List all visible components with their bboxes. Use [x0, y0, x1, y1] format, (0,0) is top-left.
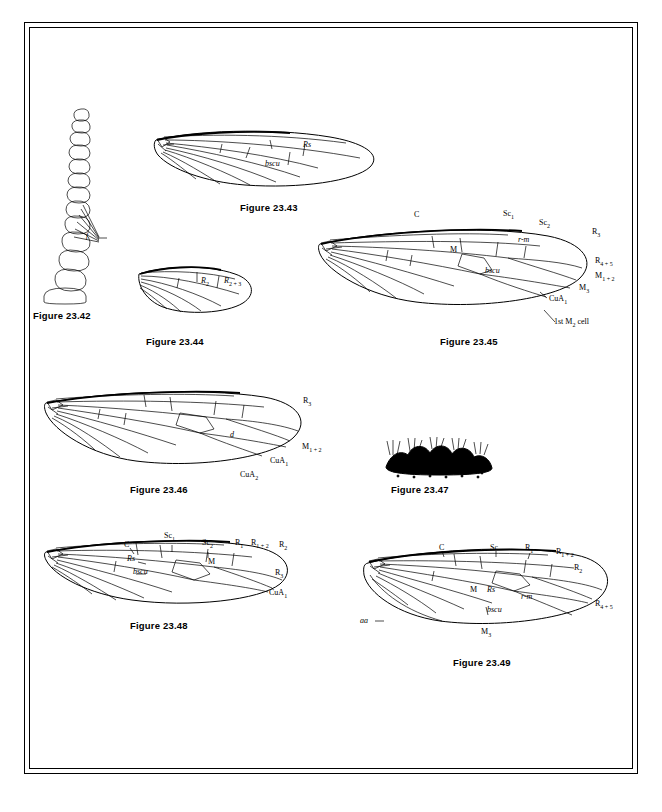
figure-23-46-label-r3: R3 — [303, 397, 311, 407]
figure-23-44-wing — [135, 262, 260, 324]
figure-23-49-caption: Figure 23.49 — [453, 657, 511, 668]
figure-23-46-label-d: d — [230, 431, 234, 439]
figure-23-46-label-m12: M1 + 2 — [302, 443, 322, 453]
figure-23-45-label-bscu: bscu — [485, 267, 500, 275]
figure-23-47-caption: Figure 23.47 — [391, 484, 449, 495]
figure-23-48-label-r3: R3 — [275, 569, 283, 579]
page-canvas: f Figure 23.42 — [0, 0, 662, 812]
figure-23-48-caption: Figure 23.48 — [130, 620, 188, 631]
figure-23-43-caption: Figure 23.43 — [240, 202, 298, 213]
figure-23-49-leader-lines — [370, 545, 600, 630]
figure-23-48-label-cua1: CuA1 — [269, 589, 287, 599]
figure-23-44-label-r2-3: R2 + 3 — [224, 277, 241, 287]
figure-23-48-leader-lines — [120, 542, 240, 572]
figure-23-46-label-cua2: CuA2 — [240, 471, 258, 481]
figure-23-42-caption: Figure 23.42 — [33, 310, 91, 321]
figure-23-43-label-bscu: bscu — [265, 160, 280, 168]
figure-23-45-label-c: C — [414, 211, 419, 219]
figure-23-45-label-r-m: r-m — [518, 236, 529, 244]
figure-23-45-label-m3: M3 — [579, 284, 589, 294]
figure-23-48-label-r12: R1 + 2 — [251, 539, 269, 549]
figure-23-45-label-r3: R3 — [592, 228, 600, 238]
figure-23-48-label-r2: R2 — [279, 541, 287, 551]
figure-23-45-label-sc2: Sc2 — [539, 219, 550, 229]
figure-23-48-label-sc1: Sc1 — [164, 532, 175, 542]
figure-23-46-label-cua1: CuA1 — [270, 457, 288, 467]
figure-23-45-label-m12: M1 + 2 — [595, 272, 615, 282]
figure-23-45-leader-lines — [500, 290, 570, 326]
figure-23-45-label-m: M — [450, 246, 457, 254]
figure-23-49-label-aa: aa — [360, 617, 368, 625]
figure-23-42-label-f: f — [86, 232, 88, 240]
figure-23-45-caption: Figure 23.45 — [440, 336, 498, 347]
figure-23-45-label-sc1: Sc1 — [503, 210, 514, 220]
figure-23-44-label-r2: R2 — [201, 277, 209, 287]
figure-23-47-larva — [380, 435, 500, 480]
figure-23-43-label-rs: Rs — [303, 141, 311, 149]
figure-23-45-label-r45: R4 + 5 — [595, 257, 613, 267]
figure-23-46-caption: Figure 23.46 — [130, 484, 188, 495]
figure-23-44-caption: Figure 23.44 — [146, 336, 204, 347]
figure-23-42-antenna — [55, 105, 125, 305]
